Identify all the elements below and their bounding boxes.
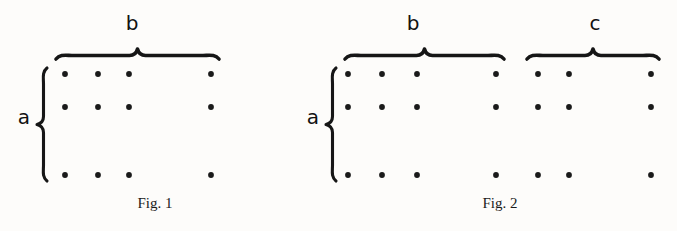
fig-2-col-brace-c [527, 49, 659, 59]
dot-r3-c5 [535, 172, 541, 178]
dot-r3-c3 [414, 172, 420, 178]
dot-r2-c3 [414, 104, 420, 110]
dot-r3-c1 [345, 172, 351, 178]
dot-r2-c3 [126, 104, 132, 110]
fig-1-caption: Fig. 1 [137, 195, 172, 211]
dot-r3-c7 [648, 172, 654, 178]
dot-r2-c2 [379, 104, 385, 110]
fig-1-col-brace-label-b: b [126, 11, 139, 35]
dot-r2-c7 [648, 104, 654, 110]
fig-2-col-brace-label-c: c [590, 11, 601, 35]
dot-r2-c5 [535, 104, 541, 110]
fig-2-row-brace-label-a: a [307, 105, 319, 129]
dot-r3-c3 [126, 172, 132, 178]
dot-r2-c2 [95, 104, 101, 110]
dot-r2-c6 [566, 104, 572, 110]
dot-r3-c4 [208, 172, 214, 178]
dot-r3-c2 [95, 172, 101, 178]
dot-r3-c2 [379, 172, 385, 178]
dot-r3-c1 [62, 172, 68, 178]
dot-r1-c4 [208, 71, 214, 77]
fig-2-group: abcFig. 2 [307, 11, 659, 212]
figure-sheet: abFig. 1abcFig. 2 Fig. 1 Fig. 2 a b a b … [0, 0, 677, 231]
dot-r1-c2 [379, 71, 385, 77]
dot-r1-c1 [345, 71, 351, 77]
fig-2-dot-grid [345, 71, 654, 178]
dot-r1-c6 [566, 71, 572, 77]
fig-2-row-brace [326, 68, 336, 181]
dot-r2-c1 [345, 104, 351, 110]
dot-r2-c1 [62, 104, 68, 110]
dot-r1-c3 [126, 71, 132, 77]
dot-r3-c4 [493, 172, 499, 178]
dot-r3-c6 [566, 172, 572, 178]
dot-r1-c4 [493, 71, 499, 77]
dot-r1-c1 [62, 71, 68, 77]
figure-canvas: abFig. 1abcFig. 2 [0, 0, 677, 231]
fig-1-row-brace-label-a: a [18, 105, 30, 129]
dot-r1-c3 [414, 71, 420, 77]
fig-1-row-brace [37, 68, 47, 181]
dot-r2-c4 [493, 104, 499, 110]
fig-2-col-brace-label-b: b [407, 11, 420, 35]
fig-1-col-brace-b [56, 49, 219, 59]
dot-r1-c2 [95, 71, 101, 77]
dot-r1-c7 [648, 71, 654, 77]
fig-1-dot-grid [62, 71, 214, 178]
fig-2-col-brace-b [345, 49, 504, 59]
fig-2-caption: Fig. 2 [482, 195, 517, 211]
dot-r1-c5 [535, 71, 541, 77]
dot-r2-c4 [208, 104, 214, 110]
fig-1-group: abFig. 1 [18, 11, 219, 212]
